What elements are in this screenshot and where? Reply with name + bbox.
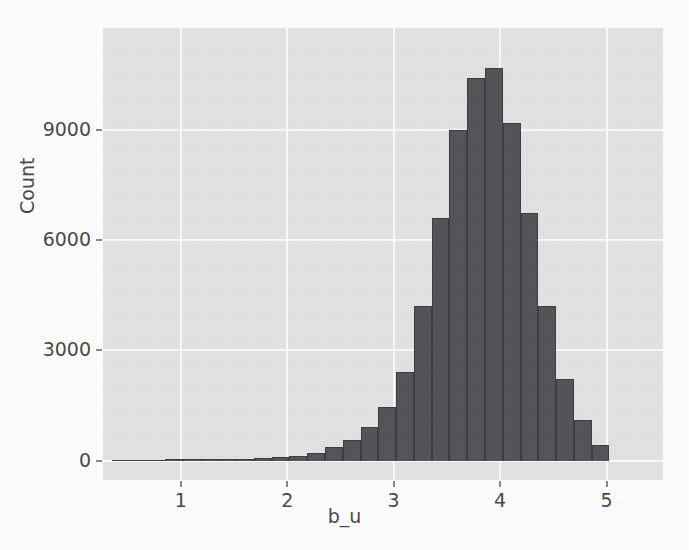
x-tick-mark-4 xyxy=(606,481,608,487)
histogram-bar xyxy=(378,407,396,461)
x-tick-mark-2 xyxy=(393,481,395,487)
histogram-bar xyxy=(218,459,236,461)
histogram-bar xyxy=(361,427,379,460)
histogram-bar xyxy=(592,445,610,461)
histogram-bar xyxy=(201,459,219,461)
histogram-bar xyxy=(112,460,130,462)
y-tick-label: 9000 xyxy=(5,118,91,140)
y-tick-mark-2 xyxy=(96,239,102,241)
histogram-bar xyxy=(467,78,485,460)
histogram-bar xyxy=(414,306,432,460)
histogram-bar xyxy=(289,456,307,461)
histogram-bar xyxy=(396,372,414,461)
histogram-bar xyxy=(485,68,503,461)
y-tick-label: 3000 xyxy=(5,338,91,360)
histogram-bar xyxy=(432,218,450,461)
x-tick-mark-3 xyxy=(499,481,501,487)
histogram-bar xyxy=(574,420,592,461)
histogram-bar xyxy=(521,213,539,461)
histogram-bar xyxy=(165,459,183,461)
x-axis-label: b_u xyxy=(0,505,689,527)
x-tick-mark-1 xyxy=(286,481,288,487)
histogram-bar xyxy=(538,306,556,460)
histogram-bar xyxy=(307,453,325,461)
histogram-bar xyxy=(503,123,521,461)
histogram-bar xyxy=(236,459,254,461)
histogram-bars xyxy=(103,28,663,480)
y-tick-mark-0 xyxy=(96,460,102,462)
plot-area xyxy=(103,28,663,480)
histogram-bar xyxy=(325,447,343,460)
x-tick-mark-0 xyxy=(180,481,182,487)
histogram-bar xyxy=(129,460,147,462)
histogram-bar xyxy=(147,460,165,462)
y-axis-label: Count xyxy=(16,158,38,214)
y-tick-label: 0 xyxy=(5,449,91,471)
y-tick-label: 6000 xyxy=(5,228,91,250)
histogram-bar xyxy=(343,440,361,461)
histogram-bar xyxy=(183,459,201,461)
histogram-bar xyxy=(449,130,467,461)
histogram-figure: 0300060009000 12345 Count b_u xyxy=(0,0,689,550)
histogram-bar xyxy=(556,379,574,460)
histogram-bar xyxy=(272,457,290,460)
histogram-bar xyxy=(254,458,272,461)
y-tick-mark-3 xyxy=(96,129,102,131)
y-tick-mark-1 xyxy=(96,349,102,351)
